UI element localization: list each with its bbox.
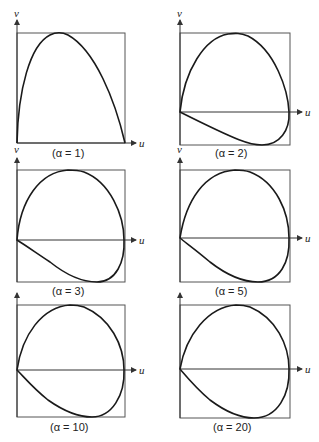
panel-alpha-2: v u (α = 2) [177,7,311,159]
panel-caption: (α = 10) [50,421,88,433]
panel-caption: (α = 3) [52,285,84,297]
panel-alpha-5: v u (α = 5) [177,143,311,297]
phase-curve [17,305,124,417]
v-axis-label: v [14,7,19,19]
v-axis-label: v [177,143,182,155]
u-axis-label: u [139,234,145,246]
u-axis-label: u [305,232,311,244]
panel-alpha-3: v u (α = 3) [14,143,145,297]
panel-alpha-20: u (α = 20) [180,293,311,433]
panel-caption: (α = 1) [52,147,84,159]
plot-frame [17,305,125,417]
panel-caption: (α = 2) [215,147,247,159]
figure-canvas: v u (α = 1) v u (α = 2) v u (α = 3) v u … [0,0,319,442]
plot-frame [17,170,125,282]
v-axis-label: v [177,7,182,19]
phase-curve [180,33,289,145]
panel-alpha-10: u (α = 10) [17,293,145,433]
phase-curve [17,170,124,282]
u-axis-label: u [305,106,311,118]
plot-frame [180,170,290,282]
plot-frame [17,33,125,143]
v-axis-label: v [14,143,19,155]
u-axis-label: u [139,364,145,376]
phase-curve [180,305,289,418]
panel-alpha-1: v u (α = 1) [14,7,145,159]
panel-caption: (α = 5) [215,285,247,297]
panel-caption: (α = 20) [213,421,251,433]
phase-curve [17,33,125,143]
plot-frame [180,33,290,145]
u-axis-label: u [139,137,145,149]
u-axis-label: u [305,363,311,375]
phase-curve [180,170,289,282]
plot-frame [180,305,290,418]
